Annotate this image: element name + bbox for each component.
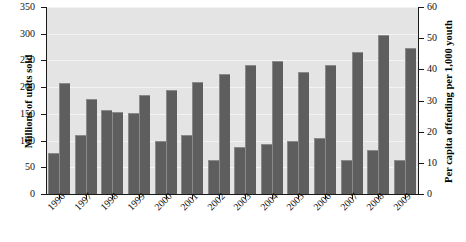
x-axis-cell: 2000 — [152, 194, 179, 242]
bar-units-2008 — [378, 35, 389, 194]
bar-offending-2005 — [287, 141, 298, 194]
right-axis-tick-label: 20 — [427, 127, 437, 137]
bar-chart: 050100150200250300350 0102030405060 Mill… — [0, 0, 466, 242]
bar-units-1996 — [59, 83, 70, 194]
right-axis-tick-label: 10 — [427, 158, 437, 168]
left-axis-tick — [41, 7, 46, 8]
bar-units-2002 — [219, 74, 230, 194]
bar-group-1998 — [99, 7, 126, 194]
left-axis-tick — [41, 60, 46, 61]
bar-units-1999 — [139, 95, 150, 194]
x-axis-labels: 1996199719981999200020012002200320042005… — [46, 194, 418, 242]
bar-offending-2007 — [341, 160, 352, 194]
bar-group-2005 — [285, 7, 312, 194]
x-axis-cell: 2003 — [232, 194, 259, 242]
right-axis-tick-label: 50 — [427, 33, 437, 43]
right-axis-title: Per capita offending per 1,000 youth — [443, 12, 454, 192]
bar-offending-2003 — [234, 147, 245, 194]
left-axis-tick — [41, 167, 46, 168]
right-axis-tick — [419, 69, 424, 70]
bar-group-2002 — [205, 7, 232, 194]
bar-group-1997 — [73, 7, 100, 194]
bar-offending-2004 — [261, 144, 272, 194]
x-axis-tick-label: 2002 — [205, 190, 227, 212]
right-axis-tick — [419, 7, 424, 8]
x-axis-cell: 2006 — [312, 194, 339, 242]
bar-units-2003 — [245, 65, 256, 194]
left-axis-title: Millions of units sold — [23, 22, 34, 182]
right-axis-tick-label: 40 — [427, 64, 437, 74]
bar-group-2007 — [338, 7, 365, 194]
x-axis-cell: 1999 — [126, 194, 153, 242]
bar-units-2001 — [192, 82, 203, 194]
left-axis-tick — [41, 34, 46, 35]
bars-layer — [46, 7, 418, 194]
x-axis-cell: 2004 — [259, 194, 286, 242]
x-axis-cell: 1997 — [73, 194, 100, 242]
x-axis-cell: 1998 — [99, 194, 126, 242]
bar-group-1996 — [46, 7, 73, 194]
bar-group-2006 — [312, 7, 339, 194]
right-axis-tick-label: 60 — [427, 2, 437, 12]
x-axis-tick-label: 2003 — [231, 190, 253, 212]
right-axis-tick — [419, 194, 424, 195]
bar-offending-2000 — [155, 141, 166, 194]
bar-group-2001 — [179, 7, 206, 194]
x-axis-cell: 2005 — [285, 194, 312, 242]
x-axis-tick-label: 1996 — [45, 190, 67, 212]
bar-offending-2008 — [367, 150, 378, 194]
bar-units-2004 — [272, 61, 283, 194]
bar-units-1998 — [112, 112, 123, 194]
bar-offending-2002 — [208, 160, 219, 194]
right-axis-tick-label: 0 — [427, 189, 432, 199]
bar-units-2007 — [352, 52, 363, 194]
bar-offending-2001 — [181, 135, 192, 194]
x-axis-cell: 2002 — [205, 194, 232, 242]
x-axis-cell: 2009 — [392, 194, 419, 242]
x-axis-tick-label: 2008 — [364, 190, 386, 212]
right-axis-tick — [419, 163, 424, 164]
left-axis-tick-label: 0 — [30, 189, 35, 199]
bar-group-2000 — [152, 7, 179, 194]
x-axis-tick-label: 2006 — [311, 190, 333, 212]
right-axis-tick — [419, 101, 424, 102]
right-axis-tick — [419, 132, 424, 133]
x-axis-tick-label: 1999 — [125, 190, 147, 212]
x-axis-cell: 2008 — [365, 194, 392, 242]
x-axis-tick-label: 1997 — [72, 190, 94, 212]
left-axis-tick — [41, 87, 46, 88]
bar-offending-2006 — [314, 138, 325, 194]
left-axis-tick — [41, 141, 46, 142]
x-axis-tick-label: 2000 — [152, 190, 174, 212]
bar-group-2003 — [232, 7, 259, 194]
left-axis-line — [46, 7, 47, 195]
bar-offending-1998 — [101, 110, 112, 194]
right-axis-tick-label: 30 — [427, 96, 437, 106]
bar-offending-1996 — [48, 153, 59, 194]
x-axis-tick-label: 2001 — [178, 190, 200, 212]
left-axis-tick — [41, 114, 46, 115]
bar-offending-2009 — [394, 160, 405, 194]
bar-offending-1999 — [128, 113, 139, 194]
bar-group-2009 — [392, 7, 419, 194]
x-axis-tick-label: 2007 — [338, 190, 360, 212]
bar-units-1997 — [86, 99, 97, 194]
left-axis-tick-label: 350 — [20, 2, 35, 12]
x-axis-cell: 2007 — [338, 194, 365, 242]
right-axis-tick — [419, 38, 424, 39]
bar-units-2009 — [405, 48, 416, 194]
bar-group-2008 — [365, 7, 392, 194]
x-axis-tick-label: 2005 — [285, 190, 307, 212]
bar-offending-1997 — [75, 135, 86, 194]
bar-units-2000 — [166, 90, 177, 194]
x-axis-cell: 1996 — [46, 194, 73, 242]
x-axis-tick-label: 2009 — [391, 190, 413, 212]
plot-area — [46, 7, 418, 194]
bar-units-2005 — [298, 72, 309, 194]
x-axis-tick-label: 2004 — [258, 190, 280, 212]
bar-group-1999 — [126, 7, 153, 194]
bar-group-2004 — [259, 7, 286, 194]
bar-units-2006 — [325, 65, 336, 194]
x-axis-cell: 2001 — [179, 194, 206, 242]
x-axis-tick-label: 1998 — [99, 190, 121, 212]
